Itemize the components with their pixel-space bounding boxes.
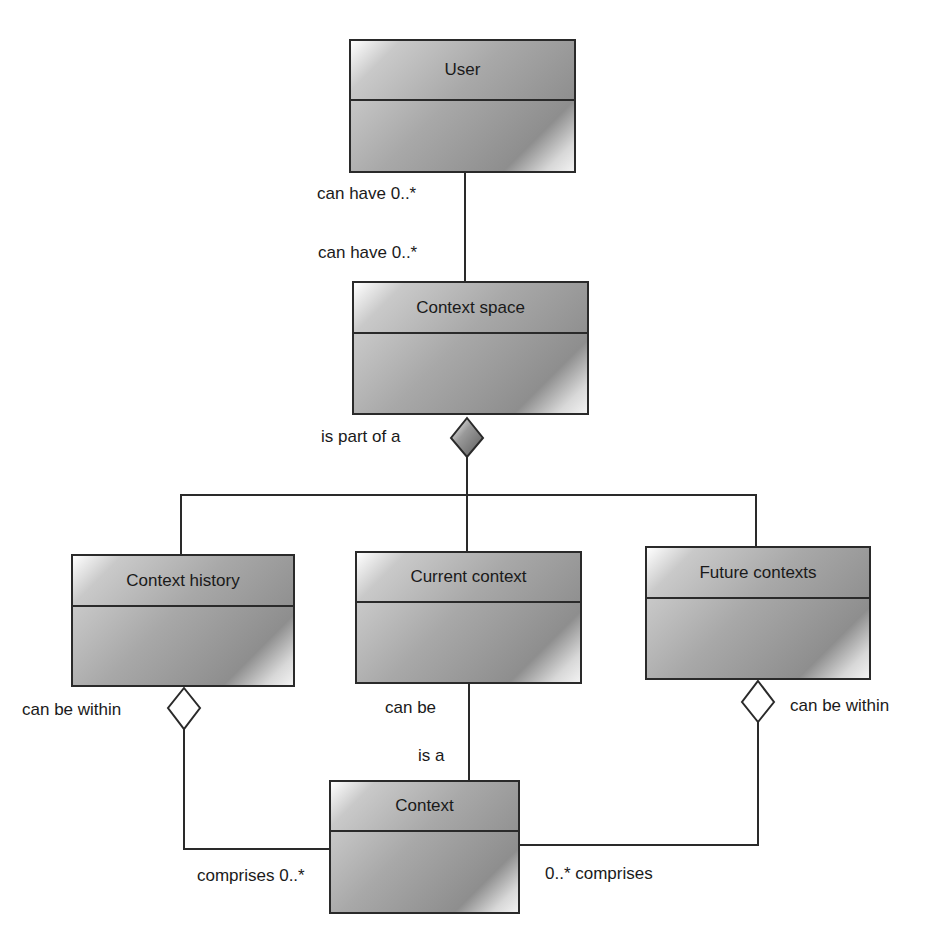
class-current-context[interactable]: Current context	[355, 551, 582, 684]
class-future-contexts-name: Future contexts	[647, 548, 869, 599]
label-space-multiplicity: can have 0..*	[318, 243, 417, 263]
class-context-history-name: Context history	[73, 556, 293, 607]
class-context[interactable]: Context	[329, 780, 520, 914]
label-comprises-left: comprises 0..*	[197, 866, 305, 886]
class-user-name: User	[351, 41, 574, 101]
label-future-within: can be within	[790, 696, 889, 716]
class-context-space-name: Context space	[354, 283, 587, 334]
composition-diamond-icon	[451, 418, 483, 457]
class-current-context-name: Current context	[357, 553, 580, 603]
class-user[interactable]: User	[349, 39, 576, 173]
aggregation-line-left	[184, 729, 329, 849]
label-user-multiplicity: can have 0..*	[317, 184, 416, 204]
class-context-space[interactable]: Context space	[352, 281, 589, 415]
label-current-can-be: can be	[385, 698, 436, 718]
aggregation-diamond-left-icon	[168, 688, 200, 729]
label-history-within: can be within	[22, 700, 121, 720]
aggregation-line-right	[519, 722, 758, 845]
class-future-contexts[interactable]: Future contexts	[645, 546, 871, 680]
class-context-history[interactable]: Context history	[71, 554, 295, 687]
class-context-name: Context	[331, 782, 518, 832]
label-context-is-a: is a	[418, 746, 444, 766]
aggregation-diamond-right-icon	[742, 681, 774, 722]
label-comprises-right: 0..* comprises	[545, 864, 653, 884]
label-is-part-of: is part of a	[321, 427, 400, 447]
